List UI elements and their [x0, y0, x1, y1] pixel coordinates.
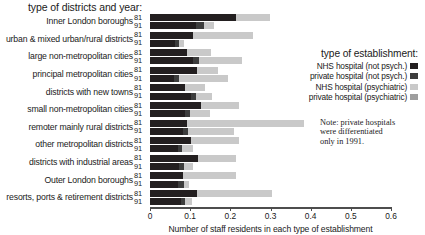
- bar-segment: [185, 84, 205, 91]
- category-label: Inner London boroughs: [0, 16, 133, 26]
- year-label: 81: [134, 154, 147, 162]
- year-label: 91: [134, 127, 147, 135]
- x-axis-tick-label: 0.6: [385, 211, 397, 221]
- bar: [150, 120, 304, 127]
- bar: [150, 190, 272, 197]
- legend-color-swatch: [410, 73, 418, 79]
- bar-segment: [150, 198, 181, 205]
- bar-segment: [187, 49, 211, 56]
- bar-segment: [196, 22, 204, 29]
- category-label: small non-metropolitan cities: [0, 104, 133, 114]
- category-label: districts with new towns: [0, 87, 133, 97]
- bar-segment: [150, 163, 179, 170]
- bar-segment: [199, 57, 242, 64]
- year-label: 91: [134, 75, 147, 83]
- bar-segment: [198, 155, 235, 162]
- bar-segment: [193, 32, 252, 39]
- bar-segment: [191, 137, 238, 144]
- bar-segment: [201, 102, 238, 109]
- bar-segment: [187, 120, 303, 127]
- x-axis-title: Number of staff residents in each type o…: [150, 224, 391, 234]
- bar-segment: [197, 67, 218, 74]
- year-label: 91: [134, 180, 147, 188]
- bar-segment: [182, 145, 192, 152]
- year-label: 91: [134, 198, 147, 206]
- x-axis-tick-label: 0.1: [184, 211, 196, 221]
- bar-segment: [196, 93, 212, 100]
- bar: [150, 32, 253, 39]
- bar-segment: [150, 102, 201, 109]
- bar: [150, 181, 189, 188]
- category-label: urban & mixed urban/rural districts: [0, 34, 133, 44]
- bar: [150, 110, 210, 117]
- x-axis-tick-label: 0.4: [305, 211, 317, 221]
- category-label: other metropolitan districts: [0, 139, 133, 149]
- bar: [150, 198, 192, 205]
- legend-color-swatch: [410, 63, 418, 69]
- bar-segment: [190, 110, 210, 117]
- bar: [150, 145, 193, 152]
- bar-segment: [184, 181, 189, 188]
- year-label: 91: [134, 92, 147, 100]
- year-label: 91: [134, 57, 147, 65]
- legend-item[interactable]: private hospital (not psych.): [310, 72, 418, 81]
- legend-color-swatch: [410, 84, 418, 90]
- legend-item[interactable]: NHS hospital (psychiatric): [315, 83, 418, 92]
- bar-segment: [150, 57, 193, 64]
- bar-segment: [197, 190, 271, 197]
- footnote: Note: private hospitals were differentia…: [320, 118, 420, 146]
- bar-segment: [150, 93, 191, 100]
- legend-item[interactable]: NHS hospital (not psych.): [317, 62, 418, 71]
- bar-segment: [150, 75, 174, 82]
- bar: [150, 155, 236, 162]
- bar-segment: [204, 22, 214, 29]
- bar-segment: [150, 32, 193, 39]
- bar-segment: [150, 110, 185, 117]
- category-label: districts with industrial areas: [0, 157, 133, 167]
- year-label: 91: [134, 110, 147, 118]
- bar: [150, 102, 239, 109]
- legend-item[interactable]: private hospital (psychiatric): [309, 93, 418, 102]
- year-label: 91: [134, 22, 147, 30]
- legend-item-label: NHS hospital (psychiatric): [315, 82, 407, 92]
- footnote-line-2: were differentiated: [320, 127, 420, 136]
- x-axis-tick-label: 0: [148, 211, 153, 221]
- bar: [150, 40, 184, 47]
- bar-segment: [150, 137, 191, 144]
- category-label: resorts, ports & retirement districts: [0, 192, 133, 202]
- bar-segment: [179, 40, 184, 47]
- bar-segment: [183, 172, 236, 179]
- bar: [150, 84, 205, 91]
- bar-segment: [150, 14, 236, 21]
- bar-segment: [184, 163, 193, 170]
- bar-segment: [150, 181, 178, 188]
- bar-segment: [150, 22, 196, 29]
- bar-segment: [150, 128, 183, 135]
- bar-segment: [150, 120, 187, 127]
- horizontal-stacked-bar-chart: type of districts and year: Inner London…: [0, 0, 425, 235]
- bar: [150, 163, 193, 170]
- legend-color-swatch: [410, 94, 418, 100]
- category-label: large non-metropolitan cities: [0, 51, 133, 61]
- bar-segment: [150, 190, 197, 197]
- bar-segment: [150, 145, 178, 152]
- category-label: principal metropolitan cities: [0, 69, 133, 79]
- plot-area: [150, 13, 391, 207]
- legend-item-label: private hospital (psychiatric): [309, 92, 407, 102]
- y-axis-title: type of districts and year:: [28, 1, 142, 13]
- x-axis-tick-label: 0.2: [225, 211, 237, 221]
- bar-segment: [150, 40, 175, 47]
- year-label: 81: [134, 66, 147, 74]
- category-label: remoter mainly rural districts: [0, 122, 133, 132]
- bar-segment: [150, 155, 198, 162]
- legend-item-label: NHS hospital (not psych.): [317, 61, 407, 71]
- footnote-line-1: Note: private hospitals: [320, 118, 420, 127]
- bar-segment: [188, 128, 234, 135]
- year-label: 91: [134, 145, 147, 153]
- bar: [150, 75, 228, 82]
- bar: [150, 93, 212, 100]
- bar-segment: [150, 67, 197, 74]
- bar-segment: [179, 75, 227, 82]
- bar: [150, 67, 218, 74]
- bar-segment: [150, 172, 183, 179]
